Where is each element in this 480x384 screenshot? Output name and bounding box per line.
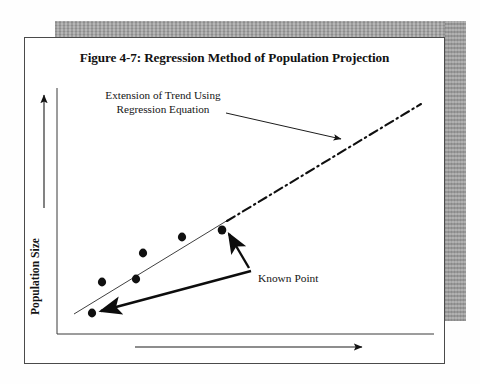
known-point-arrow-upper <box>229 234 249 268</box>
known-point-arrow-lower <box>101 271 251 311</box>
data-point <box>132 275 140 284</box>
trend-extension-line <box>227 104 421 221</box>
regression-trend-line <box>74 220 228 314</box>
data-point <box>98 278 106 287</box>
trend-annotation-arrow <box>226 113 341 139</box>
data-point <box>218 225 227 234</box>
data-point <box>178 233 186 242</box>
data-point <box>88 309 96 318</box>
figure-graphics <box>0 0 480 384</box>
figure-screenshot: Figure 4-7: Regression Method of Populat… <box>0 0 480 384</box>
data-point <box>139 249 147 258</box>
